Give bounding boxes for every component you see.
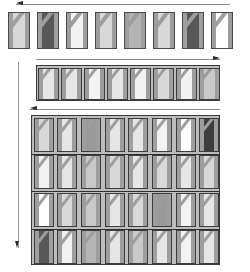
tile-edge-band: [143, 231, 147, 263]
tile-edge-band: [112, 13, 116, 48]
grid-cell-r3-c1: [32, 191, 56, 229]
tile-edge-band: [54, 13, 58, 48]
tile-edge-band: [191, 231, 195, 263]
tile-edge-band: [54, 69, 58, 99]
grid-cell-r2-c3: [79, 154, 103, 192]
grid-cell-r4-c7: [174, 229, 198, 267]
tile-edge-band: [169, 69, 173, 99]
grid-cell-r1-c6: [150, 116, 174, 154]
grid-cell-r1-c4: [103, 116, 127, 154]
grid-row-divider: [32, 229, 219, 230]
tile: [176, 230, 196, 264]
grid-cell-r4-c8: [197, 229, 221, 267]
grid-cell-r1-c3: [79, 116, 103, 154]
tile-edge-band: [146, 69, 150, 99]
strip-cell: [83, 66, 106, 102]
grid-cell-r4-c5: [127, 229, 151, 267]
tile: [57, 118, 77, 152]
tile-edge-band: [192, 69, 196, 99]
grid-cell-r2-c2: [56, 154, 80, 192]
arrow-head-icon: [16, 1, 23, 5]
tile-edge-band: [72, 119, 76, 151]
tile: [199, 193, 219, 227]
tile: [107, 68, 128, 100]
tile: [57, 155, 77, 189]
grid-cell-r2-c7: [174, 154, 198, 192]
prototile-t8: [211, 12, 233, 49]
tile: [152, 118, 172, 152]
grid-cell-r3-c2: [56, 191, 80, 229]
tile: [81, 193, 101, 227]
tile-edge-band: [72, 231, 76, 263]
tile-edge-band: [96, 231, 100, 263]
prototile-row: [8, 12, 240, 49]
arrow-shaft: [18, 62, 19, 248]
tile-edge-band: [214, 119, 218, 151]
tile: [128, 193, 148, 227]
tile: [128, 118, 148, 152]
tile: [152, 230, 172, 264]
tile-edge-band: [96, 194, 100, 226]
tile-edge-band: [120, 194, 124, 226]
tile-edge-band: [49, 231, 53, 263]
grid-cell-r3-c7: [174, 191, 198, 229]
prototile-t4: [95, 12, 117, 49]
tile-edge-band: [72, 156, 76, 188]
tile: [38, 68, 59, 100]
tile: [176, 118, 196, 152]
tile-edge-band: [191, 119, 195, 151]
grid-cell-r1-c1: [32, 116, 56, 154]
strip-cell: [106, 66, 129, 102]
grid-cell-r3-c6: [150, 191, 174, 229]
tile: [105, 118, 125, 152]
tile: [199, 118, 219, 152]
arrow-head-icon: [213, 56, 220, 60]
tile: [105, 155, 125, 189]
grid-cell-r2-c5: [127, 154, 151, 192]
tile-edge-band: [49, 156, 53, 188]
grid-cell-r4-c6: [150, 229, 174, 267]
prototile-t2: [37, 12, 59, 49]
tile: [34, 230, 54, 264]
tile-strip: [36, 65, 220, 101]
vertical-arrow: [17, 62, 20, 248]
tile-edge-band: [191, 194, 195, 226]
strip-cell: [37, 66, 60, 102]
tile-edge-band: [120, 231, 124, 263]
tile-edge-band: [167, 194, 171, 226]
tile: [34, 155, 54, 189]
arrow-head-icon: [30, 106, 37, 110]
tile: [34, 193, 54, 227]
tile-edge-band: [167, 156, 171, 188]
grid-row-divider: [32, 154, 219, 155]
tile: [81, 230, 101, 264]
tile: [128, 230, 148, 264]
tile-edge-band: [49, 194, 53, 226]
tile: [34, 118, 54, 152]
tile: [57, 193, 77, 227]
tile-edge-band: [120, 119, 124, 151]
tile-edge-band: [143, 194, 147, 226]
tile: [199, 155, 219, 189]
strip-arrow: [36, 58, 220, 61]
grid-cell-r3-c8: [197, 191, 221, 229]
tile: [105, 193, 125, 227]
tile: [176, 193, 196, 227]
tile: [81, 155, 101, 189]
tile-edge-band: [199, 13, 203, 48]
prototile-t6: [153, 12, 175, 49]
tile-edge-band: [214, 231, 218, 263]
tile-edge-band: [77, 69, 81, 99]
arrow-shaft: [16, 4, 230, 5]
tile-edge-band: [191, 156, 195, 188]
tile-edge-band: [96, 156, 100, 188]
tile-edge-band: [123, 69, 127, 99]
tile-edge-band: [143, 156, 147, 188]
tile: [128, 155, 148, 189]
tile-edge-band: [83, 13, 87, 48]
prototile-t1: [8, 12, 30, 49]
tile-edge-band: [141, 13, 145, 48]
strip-cell: [60, 66, 83, 102]
grid-cell-r4-c4: [103, 229, 127, 267]
arrow-shaft: [30, 109, 220, 110]
